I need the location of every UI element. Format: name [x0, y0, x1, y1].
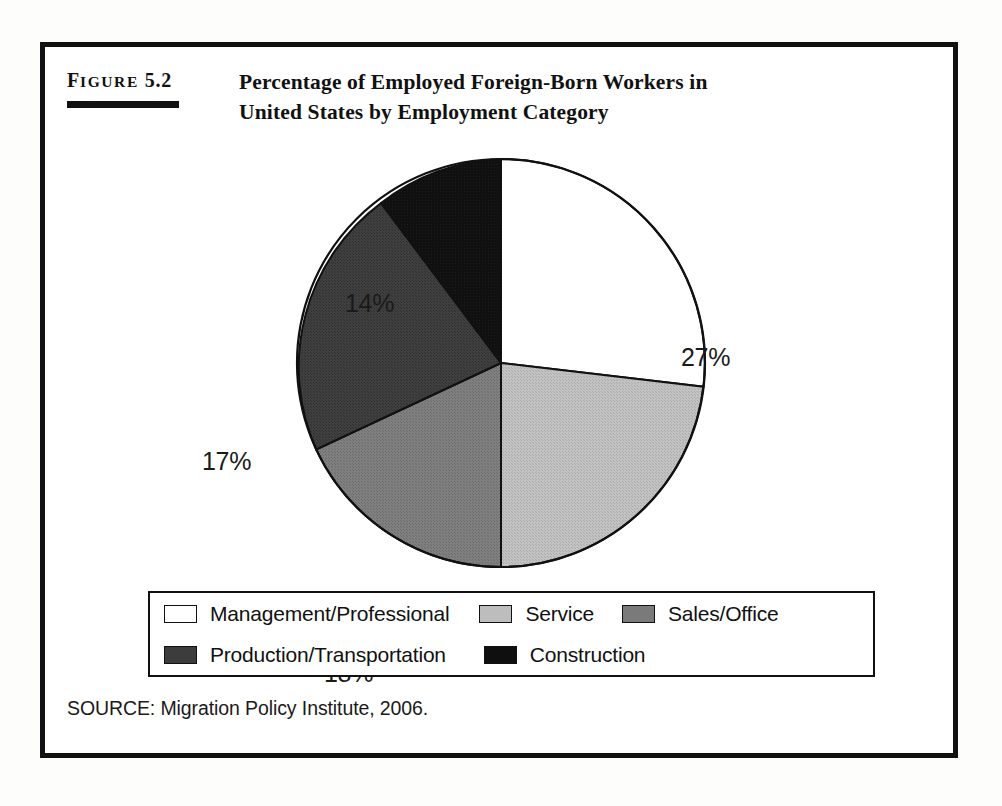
pie-label-management: 27% — [681, 343, 730, 372]
legend-swatch-icon — [164, 646, 197, 664]
source-note: SOURCE: Migration Policy Institute, 2006… — [67, 697, 428, 720]
legend-label: Production/Transportation — [210, 643, 446, 667]
legend-swatch-icon — [484, 646, 517, 664]
figure-rule-divider — [67, 101, 179, 108]
legend-item-sales-office[interactable]: Sales/Office — [622, 602, 778, 626]
legend-label: Construction — [530, 643, 646, 667]
pie-label-construction: 14% — [345, 289, 394, 318]
legend-item-management[interactable]: Management/Professional — [164, 602, 449, 626]
figure-header: FIGURE 5.2 Percentage of Employed Foreig… — [67, 67, 927, 127]
legend-swatch-icon — [479, 605, 512, 623]
figure-number: FIGURE 5.2 — [67, 69, 239, 92]
figure-number-value: 5.2 — [145, 69, 172, 91]
figure-number-prefix: F — [67, 69, 80, 91]
figure-frame: FIGURE 5.2 Percentage of Employed Foreig… — [40, 42, 958, 758]
pie-slice-service — [501, 363, 703, 567]
figure-number-word: IGURE — [80, 73, 139, 90]
legend-label: Service — [525, 602, 594, 626]
figure-title-line2: United States by Employment Category — [239, 97, 708, 127]
figure-label-block: FIGURE 5.2 — [67, 67, 239, 108]
page-title: Percentage of Employed Foreign-Born Work… — [239, 67, 708, 127]
chart-area: 27% 23% 18% 17% 14% — [45, 147, 953, 567]
legend-swatch-icon — [622, 605, 655, 623]
pie-label-production-transportation: 17% — [202, 447, 251, 476]
figure-title-line1: Percentage of Employed Foreign-Born Work… — [239, 67, 708, 97]
pie-chart — [293, 155, 713, 575]
legend-swatch-icon — [164, 605, 197, 623]
legend-item-service[interactable]: Service — [479, 602, 594, 626]
legend-label: Management/Professional — [210, 602, 449, 626]
legend-row: Management/Professional Service Sales/Of… — [150, 593, 873, 634]
pie-slice-management — [501, 159, 705, 387]
legend-row: Production/Transportation Construction — [150, 634, 873, 675]
legend-item-construction[interactable]: Construction — [484, 643, 646, 667]
legend-item-production-transportation[interactable]: Production/Transportation — [164, 643, 446, 667]
legend-label: Sales/Office — [668, 602, 778, 626]
chart-legend: Management/Professional Service Sales/Of… — [148, 591, 875, 677]
